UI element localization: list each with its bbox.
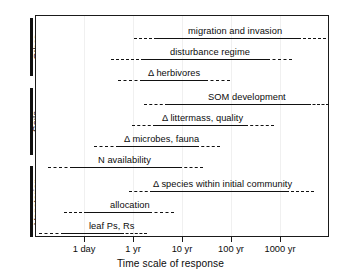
axis-tick-label-10-yr: 10 yr [172, 244, 193, 254]
row-label-som-development: SOM development [208, 92, 286, 102]
row-range-dash-left-species-within-initial-community [129, 191, 153, 192]
axis-tick-label-1-yr: 1 yr [125, 244, 141, 254]
row-range-dash-right-microbes-fauna [196, 146, 220, 147]
row-range-dash-right-herbivores [205, 80, 230, 81]
axis-tick-1000-yr [280, 237, 281, 242]
row-range-core-herbivores [143, 80, 205, 81]
axis-tick-1-day [84, 237, 85, 242]
table-row: migration and invasion [36, 20, 328, 40]
row-label-n-availability: N availability [98, 155, 151, 165]
axis-tick-100-yr [231, 237, 232, 242]
row-range-dash-right-som-development [308, 104, 329, 105]
x-axis-title: Time scale of response [0, 258, 341, 269]
plot-area: migration and invasion disturbance regim… [35, 15, 329, 237]
table-row: Δ littermass, quality [36, 107, 328, 127]
row-range-core-migration-and-invasion [157, 38, 298, 39]
row-range-dash-right-disturbance-regime [267, 59, 292, 60]
row-range-core-som-development [168, 104, 308, 105]
row-range-dash-right-migration-and-invasion [298, 38, 326, 39]
axis-tick-label-100-yr: 100 yr [218, 244, 244, 254]
row-range-dash-left-migration-and-invasion [134, 38, 157, 39]
axis-tick-label-1000-yr: 1000 yr [264, 244, 295, 254]
table-row: leaf Ps, Rs [36, 215, 328, 235]
row-label-leaf-ps-rs: leaf Ps, Rs [89, 221, 135, 231]
row-range-dash-left-herbivores [118, 80, 143, 81]
row-range-core-species-within-initial-community [153, 191, 286, 192]
row-label-herbivores: Δ herbivores [148, 68, 200, 78]
row-label-microbes-fauna: Δ microbes, fauna [124, 134, 199, 144]
row-range-dash-right-littermass-quality [245, 125, 274, 126]
row-label-disturbance-regime: disturbance regime [170, 47, 250, 57]
row-range-dash-right-species-within-initial-community [286, 191, 314, 192]
row-range-dash-right-allocation [149, 212, 174, 213]
row-range-core-allocation [87, 212, 149, 213]
table-row: Δ species within initial community [36, 173, 328, 193]
table-row: disturbance regime [36, 41, 328, 61]
axis-tick-10-yr [182, 237, 183, 242]
row-range-dash-right-n-availability [179, 167, 203, 168]
table-row: allocation [36, 194, 328, 214]
row-range-dash-left-n-availability [48, 167, 73, 168]
axis-tick-1-yr [133, 237, 134, 242]
row-label-allocation: allocation [110, 200, 150, 210]
row-range-dash-left-leaf-ps-rs [39, 233, 64, 234]
table-row: Δ microbes, fauna [36, 128, 328, 148]
table-row: N availability [36, 149, 328, 169]
time-scale-of-response-chart: Other Soils Vegetarian migration and inv… [0, 0, 341, 280]
row-range-dash-left-disturbance-regime [111, 59, 144, 60]
row-label-migration-and-invasion: migration and invasion [188, 26, 282, 36]
row-range-dash-right-leaf-ps-rs [121, 233, 147, 234]
row-range-dash-left-microbes-fauna [94, 146, 119, 147]
row-range-core-leaf-ps-rs [64, 233, 121, 234]
table-row: SOM development [36, 86, 328, 106]
row-range-dash-left-som-development [144, 104, 168, 105]
row-range-dash-left-littermass-quality [132, 125, 156, 126]
row-range-core-microbes-fauna [119, 146, 196, 147]
row-range-core-n-availability [73, 167, 179, 168]
row-label-littermass-quality: Δ littermass, quality [162, 113, 243, 123]
row-range-dash-left-allocation [64, 212, 87, 213]
row-label-species-within-initial-community: Δ species within initial community [153, 179, 292, 189]
row-range-core-disturbance-regime [144, 59, 267, 60]
row-range-core-littermass-quality [156, 125, 245, 126]
axis-tick-label-1-day: 1 day [73, 244, 96, 254]
table-row: Δ herbivores [36, 62, 328, 82]
